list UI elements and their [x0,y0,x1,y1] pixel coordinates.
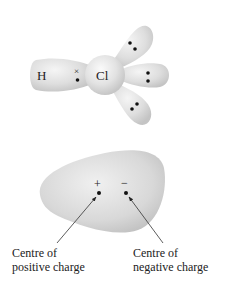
negative-centre-caption-line2: negative charge [133,260,208,274]
positive-centre-caption-line2: positive charge [12,260,85,274]
dipole-model: + − Centre of positive charge Centre of … [12,150,208,274]
positive-centre-caption-line1: Centre of [12,246,57,260]
h-atom-label: H [37,68,46,83]
negative-centre-caption-line1: Centre of [133,246,178,260]
positive-charge-symbol: + [94,177,101,191]
hcl-molecule: H Cl × [30,26,169,125]
cl-bonding-electron-dot [76,78,80,82]
hcl-dipole-diagram: H Cl × + − Centre of positive charge [0,0,229,283]
lone-pair-lobe-right [120,63,169,87]
negative-charge-symbol: − [121,176,128,190]
cl-atom-label: Cl [96,68,109,83]
negative-charge-centre-dot [124,191,128,195]
h-electron-cross: × [74,66,79,76]
positive-charge-centre-dot [97,191,101,195]
